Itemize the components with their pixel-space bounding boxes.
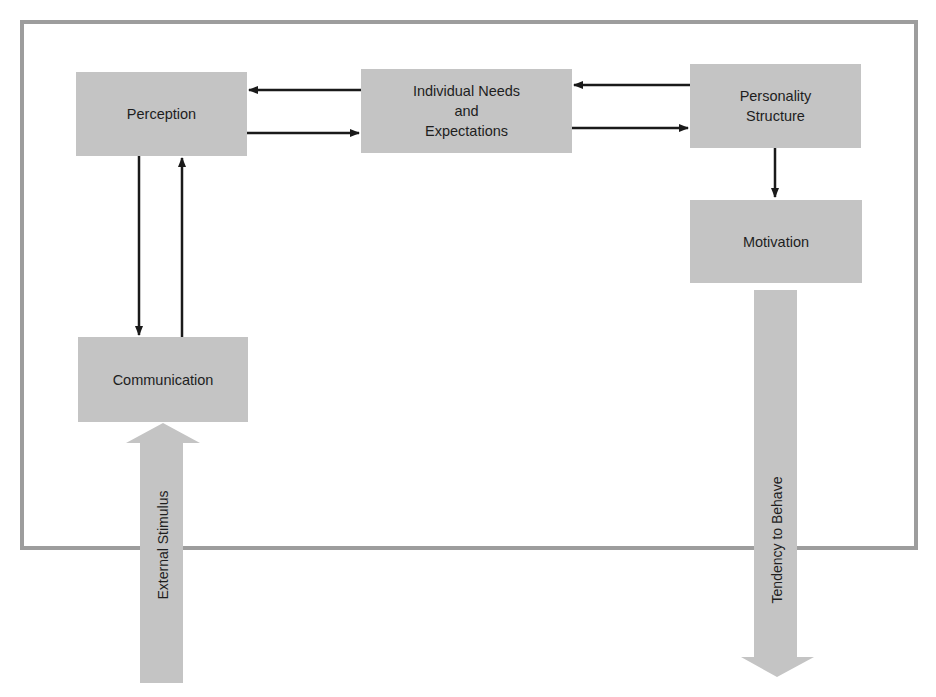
node-motivation: Motivation: [690, 200, 862, 283]
node-label: Personality Structure: [740, 86, 812, 126]
node-label: Individual Needs and Expectations: [413, 81, 520, 141]
node-label: Communication: [113, 370, 214, 390]
node-label: Motivation: [743, 232, 809, 252]
external-stimulus-label: External Stimulus: [155, 485, 171, 605]
node-personality-structure: Personality Structure: [690, 64, 861, 148]
node-label: Perception: [127, 104, 196, 124]
node-communication: Communication: [78, 337, 248, 422]
node-individual-needs: Individual Needs and Expectations: [361, 69, 572, 153]
node-perception: Perception: [76, 72, 247, 156]
tendency-to-behave-label: Tendency to Behave: [769, 474, 785, 606]
